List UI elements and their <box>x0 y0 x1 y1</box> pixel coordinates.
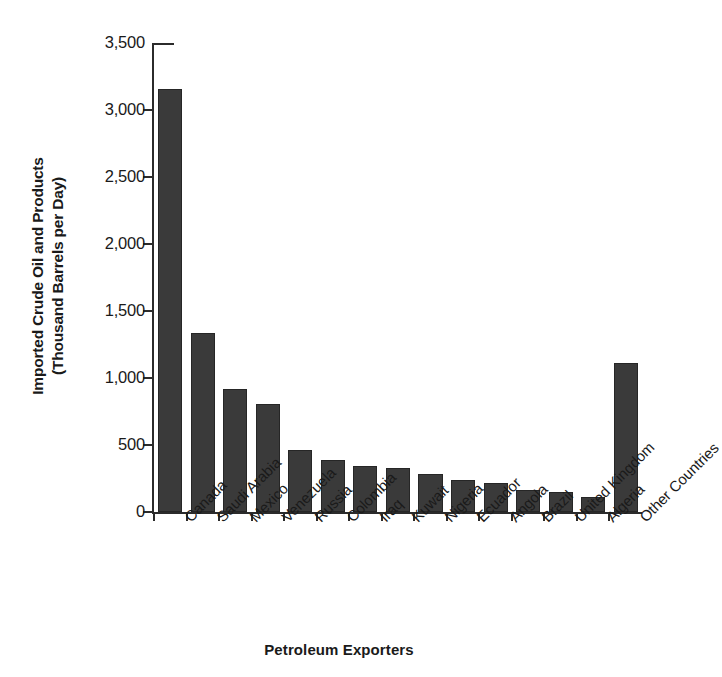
y-axis-tick-label: 1,500 <box>105 301 145 320</box>
y-axis-title-line-1: Imported Crude Oil and Products <box>28 111 48 441</box>
y-axis-tick-label: 2,000 <box>105 234 145 253</box>
y-axis-tick-label: 0 <box>136 502 145 521</box>
y-axis-tick-label: 3,500 <box>105 33 145 52</box>
y-axis-tick-label: 500 <box>118 435 145 454</box>
y-axis-tick-label: 2,500 <box>105 167 145 186</box>
x-axis-title: Petroleum Exporters <box>0 641 678 658</box>
bars-layer <box>154 43 642 512</box>
bar <box>158 89 182 512</box>
plot-area: 05001,0001,5002,0002,5003,0003,500 <box>152 43 642 513</box>
y-axis-tick-label: 3,000 <box>105 100 145 119</box>
y-axis-title: Imported Crude Oil and Products (Thousan… <box>28 111 68 441</box>
y-axis-title-line-2: (Thousand Barrels per Day) <box>48 111 68 441</box>
x-axis-category-labels: CanadaSaudi ArabiaMexicoVenezuelaRussiaC… <box>152 513 672 633</box>
y-axis-tick-label: 1,000 <box>105 368 145 387</box>
